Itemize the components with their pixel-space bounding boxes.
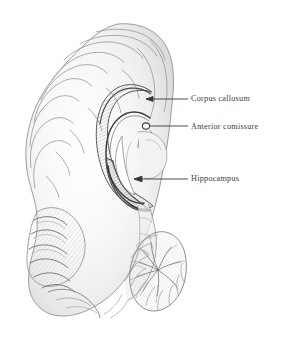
label-hippocampus: Hippocampus — [191, 175, 239, 183]
brain-drawing — [26, 24, 188, 318]
brain-sagittal-figure — [0, 0, 287, 341]
label-anterior-comissure: Anterior comissure — [191, 123, 258, 131]
label-corpus-callosum: Corpus callosum — [191, 95, 250, 103]
